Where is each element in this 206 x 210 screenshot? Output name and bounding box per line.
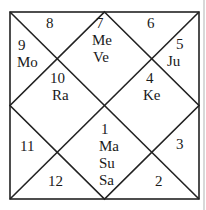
house-1-planet-sa: Sa: [99, 173, 114, 188]
right-edge-line: [203, 0, 205, 210]
house-1-number: 1: [101, 122, 109, 137]
house-2-number: 2: [155, 174, 163, 189]
house-12-number: 12: [48, 174, 63, 189]
house-5-number: 5: [176, 37, 184, 52]
house-10-planet-ra: Ra: [52, 88, 69, 103]
house-8-number: 8: [46, 16, 54, 31]
house-5-planet-ju: Ju: [167, 54, 180, 69]
house-3-number: 3: [176, 137, 184, 152]
house-7-planet-ve: Ve: [93, 50, 109, 65]
house-9-planet-mo: Mo: [17, 55, 38, 70]
house-9-number: 9: [18, 38, 26, 53]
house-6-number: 6: [147, 16, 155, 31]
house-7-planet-me: Me: [92, 33, 112, 48]
house-10-number: 10: [50, 71, 65, 86]
house-1-planet-ma: Ma: [99, 139, 119, 154]
house-4-planet-ke: Ke: [143, 88, 161, 103]
house-11-number: 11: [20, 139, 34, 154]
house-7-number: 7: [96, 16, 104, 31]
house-4-number: 4: [146, 71, 154, 86]
house-1-planet-su: Su: [99, 156, 115, 171]
